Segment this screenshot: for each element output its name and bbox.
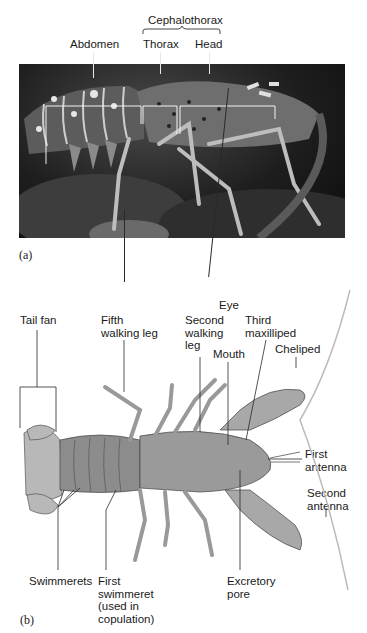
swimmerets-pointer [58, 488, 80, 570]
second-antenna-shape [300, 290, 350, 590]
tail-fan-bracket [20, 330, 56, 432]
first-swimmeret-pointer [106, 490, 116, 570]
crayfish-illustration [0, 0, 367, 633]
